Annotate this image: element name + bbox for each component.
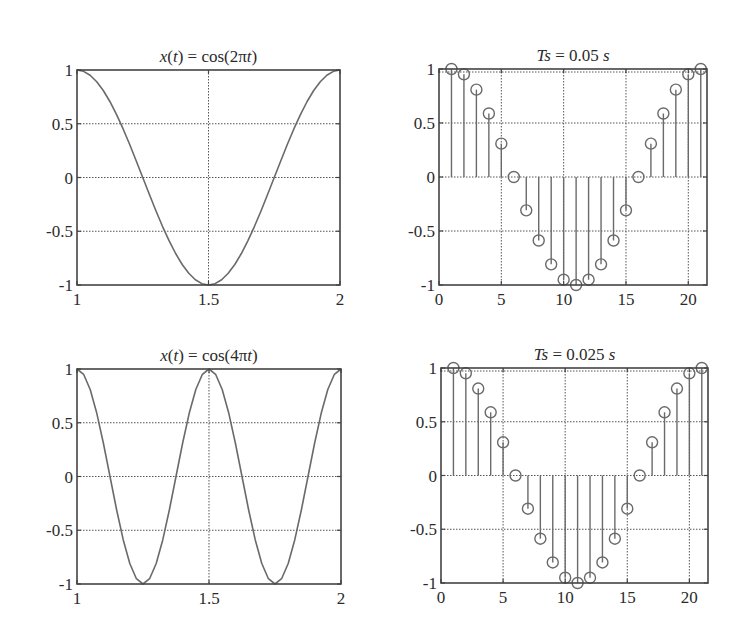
y-tick-label: -1: [59, 575, 73, 594]
figure: 11.5210.50-0.5-1x(t) = cos(2πt) 05101520…: [0, 0, 741, 636]
x-tick-labels: 05101520: [435, 290, 697, 309]
x-tick-label: 20: [681, 588, 698, 607]
y-tick-label: -0.5: [46, 521, 73, 540]
y-tick-label: -0.5: [408, 222, 435, 241]
x-tick-label: 15: [619, 588, 636, 607]
x-tick-labels: 11.52: [73, 290, 345, 309]
y-tick-label: 0: [427, 168, 436, 187]
y-tick-labels: 10.50-0.5-1: [408, 60, 435, 295]
y-tick-label: -0.5: [410, 520, 437, 539]
subplot-bottom-right: 0510152010.50-0.5-1Ts = 0.025 s: [410, 345, 708, 607]
plot-title: x(t) = cos(4πt): [159, 346, 258, 365]
y-tick-label: 0.5: [52, 115, 73, 134]
grid: [77, 369, 341, 584]
x-tick-label: 1.5: [198, 290, 219, 309]
x-tick-label: 1.5: [198, 589, 219, 608]
y-tick-label: -1: [59, 276, 73, 295]
y-tick-label: 1: [65, 61, 74, 80]
y-tick-label: -1: [423, 574, 437, 593]
subplot-bottom-left: 11.5210.50-0.5-1x(t) = cos(4πt): [46, 346, 345, 608]
x-tick-label: 20: [680, 290, 697, 309]
x-tick-label: 2: [336, 290, 345, 309]
y-tick-label: 1: [429, 359, 438, 378]
y-tick-label: 0.5: [416, 413, 437, 432]
subplot-top-left: 11.5210.50-0.5-1x(t) = cos(2πt): [46, 47, 344, 309]
x-tick-label: 0: [437, 588, 446, 607]
x-tick-label: 15: [617, 290, 634, 309]
grid: [441, 368, 708, 583]
x-tick-label: 2: [337, 589, 346, 608]
y-tick-label: 1: [65, 360, 74, 379]
x-tick-label: 1: [73, 290, 82, 309]
x-tick-label: 10: [555, 290, 572, 309]
y-tick-label: 0.5: [414, 114, 435, 133]
y-tick-labels: 10.50-0.5-1: [410, 359, 437, 593]
y-tick-label: 0: [429, 467, 438, 486]
x-tick-labels: 05101520: [437, 588, 698, 607]
y-tick-label: 0.5: [52, 414, 73, 433]
y-tick-label: 0: [65, 169, 74, 188]
y-tick-label: -1: [421, 276, 435, 295]
subplot-top-right: 0510152010.50-0.5-1Ts = 0.05 s: [408, 46, 707, 309]
grid: [439, 69, 707, 285]
x-tick-label: 5: [499, 588, 508, 607]
x-tick-label: 0: [435, 290, 444, 309]
plot-title: x(t) = cos(2πt): [159, 47, 258, 66]
figure-canvas: 11.5210.50-0.5-1x(t) = cos(2πt) 05101520…: [0, 0, 741, 636]
y-tick-labels: 10.50-0.5-1: [46, 360, 73, 594]
x-tick-label: 1: [73, 589, 82, 608]
grid: [77, 70, 340, 285]
x-tick-label: 10: [557, 588, 574, 607]
y-tick-label: 1: [427, 60, 436, 79]
x-tick-label: 5: [497, 290, 506, 309]
y-tick-label: 0: [65, 468, 74, 487]
y-tick-labels: 10.50-0.5-1: [46, 61, 73, 295]
plot-title: Ts = 0.025 s: [534, 345, 616, 364]
x-tick-labels: 11.52: [73, 589, 346, 608]
plot-title: Ts = 0.05 s: [536, 46, 610, 65]
y-tick-label: -0.5: [46, 222, 73, 241]
